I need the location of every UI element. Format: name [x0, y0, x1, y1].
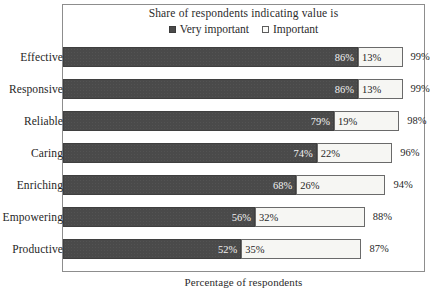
bar-value-important: 22%: [321, 144, 340, 164]
stacked-bar[interactable]: 68%26%: [63, 175, 385, 195]
category-label-effective: Effective: [20, 47, 63, 67]
bar-segment-very-important[interactable]: 56%: [63, 207, 255, 227]
bar-segment-important[interactable]: 26%: [296, 175, 385, 195]
bar-segment-very-important[interactable]: 86%: [63, 79, 358, 99]
chart-row: Reliable79%19%98%: [0, 111, 439, 131]
bar-value-important: 32%: [259, 208, 278, 228]
bar-value-very-important: 86%: [335, 48, 354, 68]
bar-value-important: 13%: [362, 48, 381, 68]
bar-value-important: 13%: [362, 80, 381, 100]
bar-segment-very-important[interactable]: 86%: [63, 47, 358, 67]
chart-row: Responsive86%13%99%: [0, 79, 439, 99]
bar-total-label: 96%: [400, 143, 419, 163]
chart-row: Empowering56%32%88%: [0, 207, 439, 227]
bar-value-very-important: 86%: [335, 80, 354, 100]
bar-total-label: 87%: [369, 239, 388, 259]
bar-total-label: 88%: [373, 207, 392, 227]
bar-segment-important[interactable]: 22%: [317, 143, 392, 163]
bar-value-very-important: 56%: [232, 208, 251, 228]
bar-value-very-important: 79%: [311, 112, 330, 132]
chart-row: Enriching68%26%94%: [0, 175, 439, 195]
bar-segment-very-important[interactable]: 74%: [63, 143, 317, 163]
bar-total-label: 98%: [407, 111, 426, 131]
bar-segment-important[interactable]: 32%: [255, 207, 365, 227]
bar-segment-very-important[interactable]: 79%: [63, 111, 334, 131]
stacked-bar[interactable]: 79%19%: [63, 111, 399, 131]
bar-value-very-important: 74%: [294, 144, 313, 164]
category-label-empowering: Empowering: [3, 207, 63, 227]
chart-row: Effective86%13%99%: [0, 47, 439, 67]
stacked-bar[interactable]: 52%35%: [63, 239, 361, 259]
bar-value-very-important: 68%: [273, 176, 292, 196]
bar-value-important: 35%: [245, 240, 264, 260]
bar-total-label: 99%: [411, 47, 430, 67]
bar-segment-very-important[interactable]: 52%: [63, 239, 241, 259]
category-label-caring: Caring: [31, 143, 63, 163]
x-axis-label: Percentage of respondents: [62, 276, 425, 288]
category-label-responsive: Responsive: [9, 79, 63, 99]
bar-total-label: 99%: [411, 79, 430, 99]
stacked-bar[interactable]: 86%13%: [63, 47, 403, 67]
category-label-enriching: Enriching: [17, 175, 63, 195]
bar-value-important: 19%: [338, 112, 357, 132]
category-label-productive: Productive: [12, 239, 63, 259]
stacked-bar[interactable]: 86%13%: [63, 79, 403, 99]
bar-segment-important[interactable]: 13%: [358, 79, 403, 99]
category-label-reliable: Reliable: [24, 111, 63, 131]
bar-value-important: 26%: [300, 176, 319, 196]
bar-segment-important[interactable]: 13%: [358, 47, 403, 67]
bar-total-label: 94%: [393, 175, 412, 195]
stacked-bar[interactable]: 56%32%: [63, 207, 365, 227]
stacked-bar[interactable]: 74%22%: [63, 143, 392, 163]
chart-row: Caring74%22%96%: [0, 143, 439, 163]
bar-value-very-important: 52%: [218, 240, 237, 260]
chart-row: Productive52%35%87%: [0, 239, 439, 259]
bar-segment-important[interactable]: 19%: [334, 111, 399, 131]
chart-bar-rows: Effective86%13%99%Responsive86%13%99%Rel…: [0, 0, 439, 297]
bar-segment-important[interactable]: 35%: [241, 239, 361, 259]
bar-segment-very-important[interactable]: 68%: [63, 175, 296, 195]
